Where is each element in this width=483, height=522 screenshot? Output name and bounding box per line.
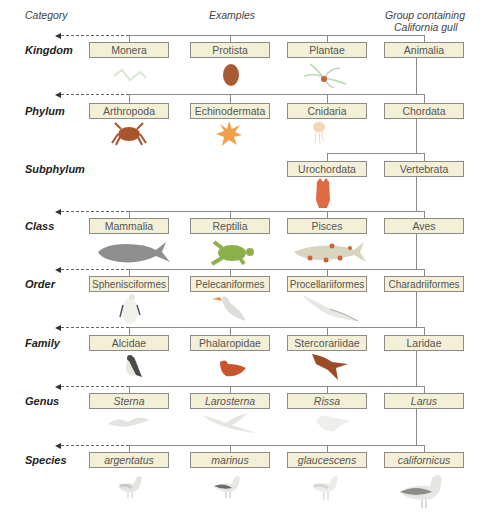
taxon-box-marinus: marinus [190,452,270,468]
tree-connector [416,292,417,328]
crab-icon [110,121,148,147]
tree-connector [424,269,425,276]
taxon-box-stercorariidae: Stercorariidae [287,335,367,351]
tree-connector [230,445,231,452]
header-group-line1: Group containing [385,9,465,21]
tree-connector [327,386,328,393]
taxon-box-vertebrata: Vertebrata [384,161,464,177]
taxon-box-aves: Aves [384,218,464,234]
tree-connector [416,351,417,386]
phalarope-icon [216,358,248,380]
starfish-icon [216,121,242,147]
tree-connector [327,445,328,452]
tree-connector [424,153,425,161]
taxon-box-larus: Larus [384,393,464,409]
puffin-icon [122,353,146,381]
bacteria-icon [112,64,148,86]
tree-connector [129,386,425,387]
amoeba-icon [220,62,242,88]
category-label-order: Order [25,278,55,290]
pelican-icon [210,293,250,323]
tree-connector [129,211,425,212]
dashed-connector [61,35,129,36]
taxon-box-sterna: Sterna [89,393,169,409]
taxon-box-echinodermata: Echinodermata [190,103,270,119]
header-group-line2: California gull [394,21,458,33]
tree-connector [230,327,231,335]
taxon-box-protista: Protista [190,42,270,58]
tree-connector [424,211,425,218]
taxon-box-charadriiformes: Charadriiformes [384,276,464,292]
tree-connector [424,386,425,393]
dashed-connector [61,94,129,95]
tree-connector [230,269,231,276]
category-label-kingdom: Kingdom [25,44,73,56]
black-backed-gull-icon [210,472,244,502]
inca-tern-icon [200,411,258,435]
tree-connector [129,445,425,446]
category-label-family: Family [25,337,60,349]
dashed-connector [61,327,129,328]
taxon-box-larosterna: Larosterna [190,393,270,409]
tree-connector [416,177,417,211]
category-label-phylum: Phylum [25,105,65,117]
taxon-box-monera: Monera [89,42,169,58]
tree-connector [230,35,231,42]
glaucous-winged-gull-icon [308,472,342,504]
arrow-left-icon [55,209,61,215]
tree-connector [424,94,425,103]
dashed-connector [61,211,129,212]
header-category: Category [25,9,68,21]
taxon-box-sphenisciformes: Sphenisciformes [89,276,169,292]
taxon-box-urochordata: Urochordata [287,161,367,177]
taxon-box-laridae: Laridae [384,335,464,351]
category-label-species: Species [25,454,67,466]
taxon-box-pisces: Pisces [287,218,367,234]
category-label-class: Class [25,220,54,232]
tree-connector [129,35,130,42]
arrow-left-icon [55,443,61,449]
taxon-box-alcidae: Alcidae [89,335,169,351]
tree-connector [327,269,328,276]
tree-connector [416,58,417,94]
turtle-icon [208,240,256,266]
plant-icon [300,62,352,88]
dashed-connector [61,269,129,270]
fish-icon [292,240,368,266]
tree-connector [327,153,425,154]
tree-connector [230,386,231,393]
taxon-box-cnidaria: Cnidaria [287,103,367,119]
tree-connector [129,94,130,103]
tree-connector [129,327,425,328]
sea-squirt-icon [314,178,332,208]
header-examples: Examples [209,9,255,21]
california-gull-icon [396,470,448,510]
tree-connector [129,269,130,276]
tree-connector [129,94,425,95]
albatross-icon [300,293,360,323]
tree-connector [424,35,425,42]
arrow-left-icon [55,92,61,98]
tree-connector [230,211,231,218]
tree-connector [230,94,231,103]
taxon-box-mammalia: Mammalia [89,218,169,234]
tree-connector [416,234,417,269]
taxon-box-phalaropidae: Phalaropidae [190,335,270,351]
tree-connector [129,327,130,335]
dashed-connector [61,445,129,446]
herring-gull-icon [114,472,146,502]
tree-connector [424,327,425,335]
taxon-box-procellariiformes: Procellariiformes [287,276,367,292]
tree-connector [129,269,425,270]
tree-connector [327,327,328,335]
taxon-box-rissa: Rissa [287,393,367,409]
tree-connector [416,119,417,153]
tree-connector [129,35,425,36]
dashed-connector [61,386,129,387]
taxon-box-glaucescens: glaucescens [287,452,367,468]
kittiwake-icon [312,411,352,435]
skua-icon [310,352,350,382]
tree-connector [424,445,425,452]
arrow-left-icon [55,33,61,39]
taxon-box-californicus: californicus [384,452,464,468]
